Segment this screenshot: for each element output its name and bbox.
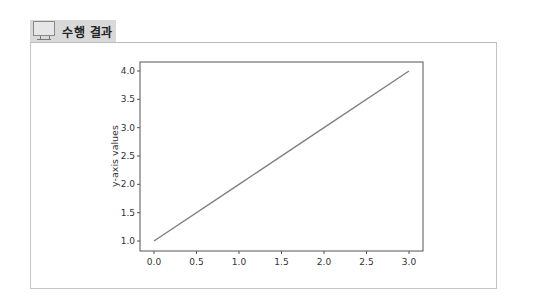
- data-line: [154, 71, 409, 241]
- y-tick-label: 1.5: [121, 208, 135, 218]
- x-tick-label: 0.0: [147, 257, 162, 267]
- x-tick-label: 0.5: [189, 257, 203, 267]
- y-axis-label: y-axis values: [109, 125, 120, 187]
- x-tick-label: 2.5: [359, 257, 373, 267]
- y-tick-label: 3.0: [121, 123, 136, 133]
- y-tick-label: 1.0: [121, 236, 136, 246]
- y-tick-label: 2.5: [121, 151, 135, 161]
- x-tick-label: 1.0: [232, 257, 247, 267]
- y-tick-label: 2.0: [121, 179, 136, 189]
- line-chart: 0.00.51.01.52.02.53.01.01.52.02.53.03.54…: [0, 0, 541, 308]
- y-tick-label: 4.0: [121, 66, 136, 76]
- x-tick-label: 3.0: [402, 257, 417, 267]
- x-tick-label: 1.5: [274, 257, 288, 267]
- x-tick-label: 2.0: [317, 257, 332, 267]
- y-tick-label: 3.5: [121, 94, 135, 104]
